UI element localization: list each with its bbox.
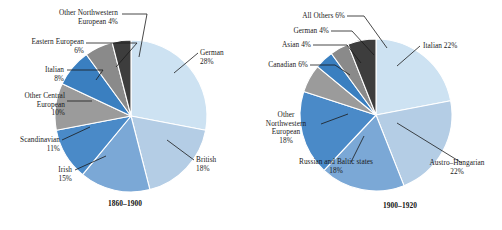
slice-label-asian: Asian 4% — [255, 41, 311, 50]
slice-label-russian-and-baltic-states: Russian and Baltic states 18% — [289, 158, 383, 175]
slice-label-eastern-european: Eastern European 6% — [2, 38, 84, 55]
slice-label-other-northwestern-european: Other Northwestern European 4% — [6, 9, 118, 26]
chart-caption-1900-1920: 1900–1920 — [355, 201, 445, 210]
slice-label-scandinavian: Scandinavian 11% — [2, 136, 60, 153]
pie-slice — [131, 40, 207, 130]
slice-label-italian: Italian 22% — [423, 42, 489, 51]
slice-label-canadian: Canadian 6% — [251, 61, 308, 70]
slice-label-all-others: All Others 6% — [267, 12, 345, 21]
slice-label-other-northwestern-european: Other Northwestern European 18% — [253, 111, 319, 145]
slice-label-german: German 4% — [255, 27, 329, 36]
slice-label-austro-hungarian: Austro–Hungarian 22% — [415, 159, 499, 176]
slice-label-irish: Irish 15% — [30, 166, 72, 183]
pie-chart-1860-1900: Other Northwestern European 4% Eastern E… — [0, 0, 251, 230]
immigration-origin-pie-figure: Other Northwestern European 4% Eastern E… — [0, 0, 502, 230]
pie-chart-1900-1920: All Others 6% German 4% Asian 4% Canadia… — [251, 0, 502, 230]
slice-label-italian: Italian 8% — [12, 66, 64, 83]
slice-label-british: British 18% — [196, 156, 244, 173]
slice-label-german: German 28% — [200, 49, 248, 66]
slice-label-other-central-european: Other Central European 10% — [2, 92, 65, 118]
chart-caption-1860-1900: 1860–1900 — [80, 199, 170, 208]
